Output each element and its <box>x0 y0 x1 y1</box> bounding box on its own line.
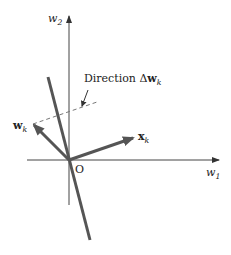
direction-annotation: Direction Δwk <box>84 72 162 87</box>
direction-dashed-line <box>33 102 97 124</box>
diagram-canvas: w2 w1 O wk xk Direction Δwk <box>0 0 231 255</box>
x-k-vector <box>69 138 133 160</box>
w1-axis-label: w1 <box>206 166 220 181</box>
direction-pointer-arrow <box>82 90 88 106</box>
origin-label: O <box>75 163 84 176</box>
w-k-label: wk <box>13 119 27 134</box>
x-k-label: xk <box>138 130 149 145</box>
diagram-svg <box>0 0 231 255</box>
w2-axis-label: w2 <box>48 12 62 27</box>
